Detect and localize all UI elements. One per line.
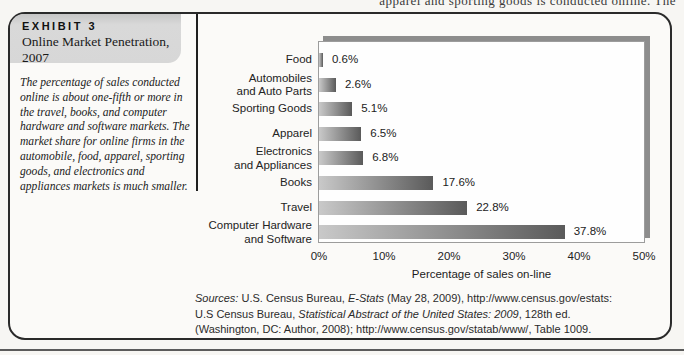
bar — [319, 176, 433, 190]
bar — [319, 127, 361, 141]
bar — [319, 201, 467, 215]
sources-text-segment: U.S Census Bureau, — [195, 308, 298, 320]
value-label: 0.6% — [332, 52, 358, 66]
sources-italic-segment: Statistical Abstract of the United State… — [298, 308, 518, 320]
sources-line: U.S Census Bureau, Statistical Abstract … — [195, 307, 663, 323]
value-label: 2.6% — [345, 77, 371, 91]
page-top-text-fragment: apparel and sporting goods is conducted … — [10, 0, 676, 9]
sources-italic-segment: E-Stats — [348, 292, 384, 304]
exhibit-box: EXHIBIT 3 Online Market Penetration, 200… — [8, 12, 672, 340]
value-label: 6.8% — [372, 150, 398, 164]
category-label: Automobilesand Auto Parts — [138, 71, 312, 98]
value-label: 5.1% — [361, 101, 387, 115]
value-label: 17.6% — [442, 175, 475, 189]
sources-text-segment: , 128th ed. — [519, 308, 571, 320]
sources-text-segment: (Washington, DC: Author, 2008); http://w… — [195, 323, 591, 335]
sources-text-segment: (May 28, 2009), http://www.census.gov/es… — [384, 292, 612, 304]
category-label: Computer Hardwareand Software — [138, 219, 312, 246]
bar — [319, 102, 352, 116]
bar — [319, 78, 336, 92]
x-axis-tick-label: 0% — [297, 250, 341, 262]
category-label: Apparel — [138, 127, 312, 141]
sources-italic-segment: Sources: — [195, 292, 238, 304]
value-label: 6.5% — [370, 126, 396, 140]
x-axis-tick-label: 10% — [362, 250, 406, 262]
bar — [319, 151, 363, 165]
category-label: Travel — [138, 201, 312, 215]
value-label: 22.8% — [476, 200, 509, 214]
bar — [319, 225, 565, 239]
exhibit-label: EXHIBIT 3 — [22, 20, 181, 32]
category-label: Sporting Goods — [138, 102, 312, 116]
x-axis-label: Percentage of sales on-line — [318, 268, 645, 280]
page-bottom-rule — [0, 349, 684, 351]
x-axis-tick-label: 40% — [557, 250, 601, 262]
category-label: Books — [138, 176, 312, 190]
sources-text-segment: U.S. Census Bureau, — [238, 292, 347, 304]
value-label: 37.8% — [574, 224, 607, 238]
x-axis-tick-label: 20% — [427, 250, 471, 262]
category-label: Food — [138, 53, 312, 67]
sources-note: Sources: U.S. Census Bureau, E-Stats (Ma… — [195, 291, 663, 338]
category-label: Electronicsand Appliances — [138, 145, 312, 172]
sources-line: Sources: U.S. Census Bureau, E-Stats (Ma… — [195, 291, 663, 307]
x-axis-tick-label: 50% — [622, 250, 666, 262]
x-axis-tick-label: 30% — [492, 250, 536, 262]
sources-line: (Washington, DC: Author, 2008); http://w… — [195, 322, 663, 338]
bar — [319, 53, 323, 67]
